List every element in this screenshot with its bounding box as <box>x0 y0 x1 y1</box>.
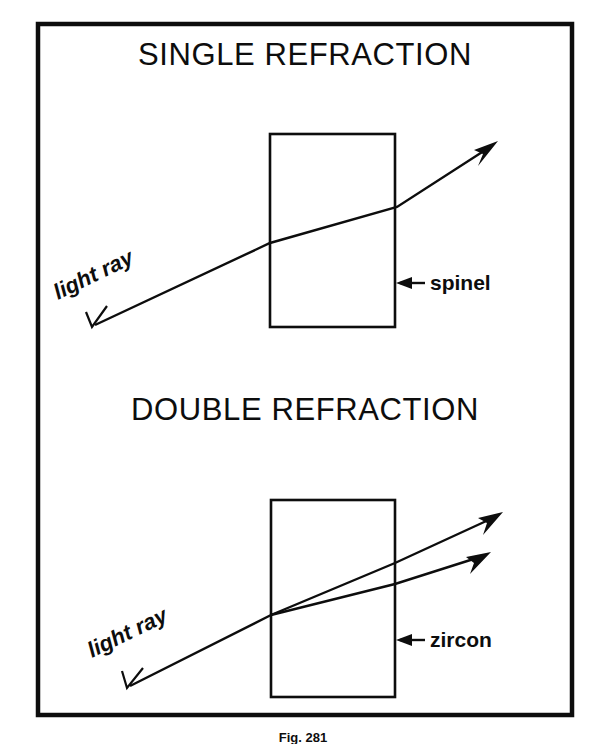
zircon-label: zircon <box>430 628 492 651</box>
panel-single-refraction: SINGLE REFRACTION light ray spinel <box>49 37 498 327</box>
figure-canvas: SINGLE REFRACTION light ray spinel DOUBL… <box>0 0 600 744</box>
zircon-leader-arrow-icon <box>396 634 412 646</box>
spinel-crystal-rect <box>270 134 395 327</box>
panel-double-refraction: DOUBLE REFRACTION light ray zircon <box>83 392 503 697</box>
double-light-ray-label: light ray <box>83 602 172 663</box>
single-light-ray-label: light ray <box>49 244 138 305</box>
figure-caption: Fig. 281 <box>279 730 327 744</box>
double-refraction-title: DOUBLE REFRACTION <box>131 392 479 427</box>
double-refraction-ray-upper <box>130 517 495 686</box>
refraction-figure: SINGLE REFRACTION light ray spinel DOUBL… <box>0 0 600 744</box>
figure-frame <box>38 24 572 715</box>
single-refraction-title: SINGLE REFRACTION <box>138 37 472 72</box>
spinel-label: spinel <box>430 271 491 294</box>
double-ray-lower-arrow-icon <box>466 552 491 574</box>
spinel-leader-arrow-icon <box>396 277 412 289</box>
double-refraction-ray-lower <box>271 556 483 615</box>
single-ray-head-arrow-icon <box>474 141 498 166</box>
single-refraction-ray <box>95 147 490 325</box>
